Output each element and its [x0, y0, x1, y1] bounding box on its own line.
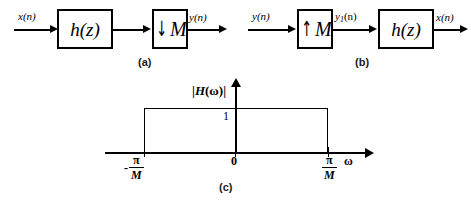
- downsampler-block-a[interactable]: ↓ M: [152, 9, 188, 49]
- minus-sign: -: [124, 162, 128, 174]
- magnitude-bar-right: |: [223, 83, 226, 98]
- filter-block-b-label: h(z): [391, 20, 421, 39]
- magnitude-axis-arrowhead: [231, 78, 241, 87]
- arrowhead-a-middle: [143, 25, 151, 33]
- filter-block-a[interactable]: h(z): [57, 9, 113, 49]
- up-arrow-icon: ↑: [302, 19, 313, 40]
- arrowhead-b-input: [288, 25, 296, 33]
- upsampler-block-b[interactable]: ↑ M: [297, 9, 333, 49]
- wire-b-input: [248, 29, 290, 31]
- fraction-negative-denominator: M: [129, 168, 144, 181]
- caption-a: (a): [138, 56, 151, 68]
- wire-b-middle: [333, 29, 371, 31]
- upsampler-factor-b: M: [315, 19, 332, 39]
- signal-label-b-intermediate-tail: (n): [344, 10, 357, 22]
- downsampler-factor-a: M: [170, 19, 187, 39]
- arrowhead-a-output: [219, 25, 227, 33]
- tick-negative-pi-over-m: [144, 147, 145, 157]
- omega-axis-arrowhead: [365, 148, 374, 158]
- arrowhead-b-middle: [369, 25, 377, 33]
- fraction-positive: π M: [322, 154, 337, 181]
- amplitude-label-one: 1: [223, 109, 229, 124]
- tick-label-negative-pi-over-m: - π M: [124, 154, 144, 181]
- wire-a-middle: [113, 29, 145, 31]
- signal-label-b-output: x(n): [436, 11, 454, 23]
- magnitude-omega: (ω): [205, 83, 223, 98]
- tick-label-positive-pi-over-m: π M: [322, 154, 337, 181]
- filter-block-b[interactable]: h(z): [378, 9, 434, 49]
- fraction-positive-numerator: π: [324, 154, 335, 167]
- fraction-positive-denominator: M: [322, 168, 337, 181]
- arrowhead-b-output: [460, 25, 468, 33]
- signal-label-a-input: x(n): [18, 10, 36, 22]
- wire-a-output: [188, 29, 221, 31]
- magnitude-h: H: [195, 83, 205, 98]
- fraction-negative: π M: [129, 154, 144, 181]
- wire-b-output: [434, 29, 462, 31]
- caption-c: (c): [219, 181, 232, 193]
- multirate-figure: x(n) h(z) ↓ M y(n) (a) y(n) ↑ M: [0, 0, 471, 200]
- signal-label-a-output: y(n): [189, 11, 207, 23]
- passband-rectangle: [144, 108, 328, 152]
- omega-axis-label: ω: [344, 154, 353, 169]
- down-arrow-icon: ↓: [157, 19, 168, 40]
- wire-a-input: [14, 29, 52, 31]
- caption-b: (b): [355, 56, 369, 68]
- signal-label-b-intermediate: y1(n): [335, 10, 357, 24]
- fraction-negative-numerator: π: [131, 154, 142, 167]
- magnitude-response-label: |H(ω)|: [192, 83, 226, 99]
- origin-label-zero: 0: [231, 154, 237, 169]
- filter-block-a-label: h(z): [70, 20, 100, 39]
- signal-label-b-input: y(n): [252, 10, 270, 22]
